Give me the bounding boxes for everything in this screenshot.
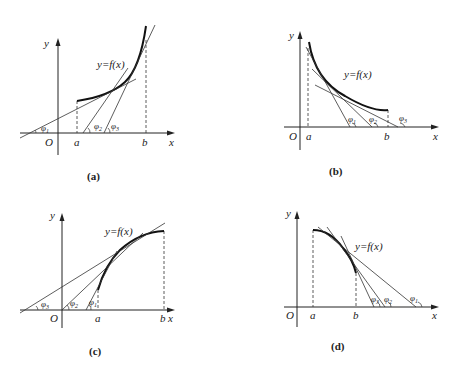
tangent-line-1 bbox=[306, 47, 350, 127]
curve-label: y=f(x) bbox=[104, 225, 133, 238]
tangent-line-3 bbox=[104, 25, 155, 133]
angle-phi1-label: φ1 bbox=[348, 114, 356, 125]
x-axis-label: x bbox=[167, 312, 173, 324]
x-axis-arrow-icon bbox=[167, 131, 175, 136]
y-axis-arrow-icon bbox=[298, 31, 303, 39]
x-axis-arrow-icon bbox=[431, 125, 439, 130]
point-b-label: b bbox=[160, 312, 166, 324]
x-axis-label: x bbox=[432, 130, 438, 142]
angle-phi3-label: φ3 bbox=[399, 113, 407, 124]
origin-label: O bbox=[286, 309, 294, 321]
point-a-label: a bbox=[74, 136, 80, 148]
y-axis-arrow-icon bbox=[56, 38, 61, 46]
point-b-label: b bbox=[384, 130, 390, 142]
point-a-label: a bbox=[95, 312, 101, 324]
angle-phi1-label: φ1 bbox=[41, 123, 49, 134]
y-axis-label: y bbox=[288, 29, 294, 41]
panel-d: y x O a b φ3 φ2 φ1 y=f(x) (d) bbox=[284, 207, 439, 353]
point-b-label: b bbox=[142, 136, 148, 148]
y-axis-label: y bbox=[43, 37, 49, 49]
y-axis-label: y bbox=[49, 209, 55, 221]
curve-f bbox=[98, 231, 164, 290]
curve-label: y=f(x) bbox=[343, 68, 372, 81]
panel-b: y x O a b φ1 φ2 φ3 y=f(x) (b) bbox=[284, 29, 439, 178]
angle-phi1-label: φ1 bbox=[89, 297, 97, 308]
x-axis-label: x bbox=[431, 309, 437, 321]
curve-f bbox=[313, 230, 356, 273]
figure-canvas: y x O a b φ1 φ2 φ3 y=f(x) (a) y x O a b bbox=[0, 0, 455, 372]
point-a-label: a bbox=[306, 130, 312, 142]
origin-label: O bbox=[289, 130, 297, 142]
angle-phi3-label: φ3 bbox=[371, 294, 379, 305]
y-axis-arrow-icon bbox=[295, 211, 300, 219]
panel-caption: (a) bbox=[87, 170, 100, 183]
curve-label: y=f(x) bbox=[354, 240, 383, 253]
angle-arc-3 bbox=[108, 128, 110, 133]
origin-label: O bbox=[45, 136, 53, 148]
angle-arc-1 bbox=[418, 302, 422, 307]
angle-arc-2 bbox=[88, 128, 90, 133]
x-axis-label: x bbox=[168, 136, 174, 148]
panel-a: y x O a b φ1 φ2 φ3 y=f(x) (a) bbox=[20, 25, 175, 183]
panel-caption: (c) bbox=[89, 345, 102, 358]
tangent-line-3 bbox=[315, 85, 398, 127]
panel-c: y x O a b φ3 φ2 φ1 y=f(x) (c) bbox=[20, 209, 175, 358]
angle-arc-2 bbox=[67, 305, 69, 310]
angle-phi2-label: φ2 bbox=[94, 121, 102, 132]
y-axis-arrow-icon bbox=[60, 213, 65, 221]
point-b-label: b bbox=[353, 309, 359, 321]
curve-label: y=f(x) bbox=[96, 58, 125, 71]
angle-phi2-label: φ2 bbox=[384, 294, 392, 305]
point-a-label: a bbox=[310, 309, 316, 321]
angle-phi1-label: φ1 bbox=[410, 293, 418, 304]
tangent-line-1 bbox=[318, 227, 416, 307]
origin-label: O bbox=[50, 312, 58, 324]
panel-caption: (d) bbox=[331, 340, 345, 353]
tangent-line-2 bbox=[83, 68, 128, 133]
angle-phi3-label: φ3 bbox=[111, 121, 119, 132]
angle-phi3-label: φ3 bbox=[41, 299, 49, 310]
angle-phi2-label: φ2 bbox=[70, 298, 78, 309]
panel-caption: (b) bbox=[329, 165, 343, 178]
y-axis-label: y bbox=[285, 207, 291, 219]
angle-arc-3 bbox=[36, 306, 38, 310]
